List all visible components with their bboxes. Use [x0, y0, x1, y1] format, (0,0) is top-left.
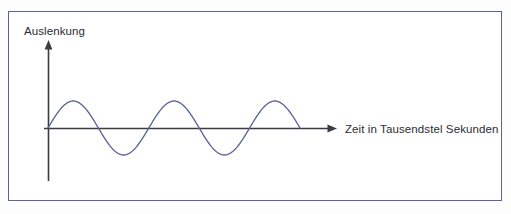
oscillation-diagram: Auslenkung Zeit in Tausendstel Sekunden	[0, 0, 511, 214]
y-axis-label: Auslenkung	[24, 25, 85, 37]
y-axis-arrow-icon	[45, 40, 53, 50]
figure-root: Auslenkung Zeit in Tausendstel Sekunden	[0, 0, 511, 214]
x-axis-arrow-icon	[328, 125, 338, 133]
x-axis-label: Zeit in Tausendstel Sekunden	[345, 123, 498, 135]
